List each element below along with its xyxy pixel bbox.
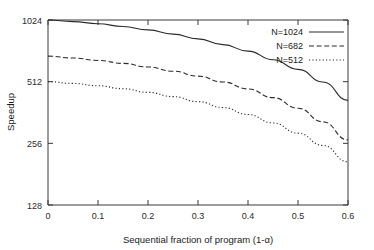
x-tick-label: 0.3 bbox=[192, 211, 205, 221]
y-axis-title: Speedup bbox=[5, 93, 16, 131]
legend-label-n-512: N=512 bbox=[276, 55, 303, 65]
legend-label-n-682: N=682 bbox=[276, 41, 303, 51]
y-tick-label: 1024 bbox=[22, 16, 42, 26]
speedup-chart-figure: 1282565121024 00.10.20.30.40.50.6 Sequen… bbox=[0, 0, 374, 250]
x-tick-label: 0.4 bbox=[242, 211, 255, 221]
y-tick-label: 256 bbox=[27, 139, 42, 149]
y-tick-label: 512 bbox=[27, 77, 42, 87]
x-tick-label: 0.5 bbox=[292, 211, 305, 221]
x-tick-label: 0.2 bbox=[142, 211, 155, 221]
y-tick-label: 128 bbox=[27, 201, 42, 211]
chart-canvas: 1282565121024 00.10.20.30.40.50.6 Sequen… bbox=[0, 0, 374, 250]
x-tick-label: 0.1 bbox=[92, 211, 105, 221]
x-tick-label: 0.6 bbox=[342, 211, 355, 221]
x-axis-title: Sequential fraction of program (1-α) bbox=[123, 234, 273, 245]
legend-label-n-1024: N=1024 bbox=[271, 27, 303, 37]
x-tick-label: 0 bbox=[45, 211, 50, 221]
